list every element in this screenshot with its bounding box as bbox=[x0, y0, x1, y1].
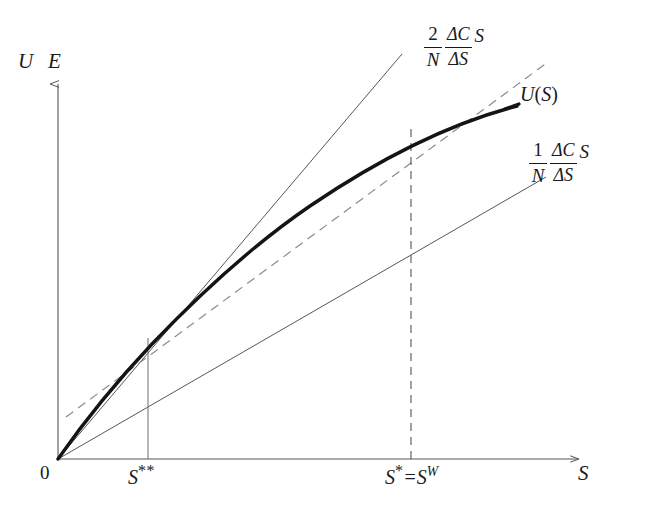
steep-ray-denominator: N bbox=[425, 50, 442, 71]
shallow-ray-line bbox=[58, 177, 546, 459]
steep-ray-delta-fraction-bar bbox=[445, 47, 472, 48]
y-axis-label-e: E bbox=[48, 51, 61, 72]
curve-label-arg: S bbox=[541, 83, 551, 105]
shallow-ray-fraction-dc-over-ds: ΔC ΔS bbox=[550, 141, 577, 185]
x-tick-label-s-double-star: S** bbox=[128, 463, 155, 487]
origin-label: 0 bbox=[40, 463, 50, 482]
shallow-ray-trailing-s: S bbox=[580, 142, 590, 161]
steep-ray-numerator: 2 bbox=[426, 24, 440, 45]
shallow-ray-numerator: 1 bbox=[531, 140, 545, 161]
shallow-ray-fraction-one-over-n: 1 N bbox=[529, 140, 547, 186]
tick-superscript-w: W bbox=[427, 464, 438, 479]
tangent-dashed-line bbox=[66, 62, 548, 417]
shallow-ray-delta-c: ΔC bbox=[550, 141, 577, 160]
utility-curve bbox=[58, 106, 517, 459]
y-axis-label-u: U bbox=[18, 51, 33, 72]
steep-ray-fraction-bar bbox=[424, 47, 442, 48]
plot-canvas bbox=[0, 0, 651, 513]
tick-symbol-s-star: S bbox=[385, 466, 395, 488]
tick-symbol-s-w: S bbox=[417, 466, 427, 488]
shallow-ray-fraction-bar bbox=[529, 163, 547, 164]
x-tick-label-s-star-equals-s-w: S*=SW bbox=[385, 463, 438, 487]
tick-superscript-double-star: ** bbox=[138, 462, 155, 479]
steep-ray-label: 2 N ΔC ΔS S bbox=[424, 24, 484, 70]
economics-figure: U E S 0 S** S*=SW U(S) 2 N ΔC ΔS S 1 N bbox=[0, 0, 651, 513]
shallow-ray-delta-fraction-bar bbox=[550, 163, 577, 164]
steep-ray-delta-s: ΔS bbox=[447, 50, 471, 69]
shallow-ray-label: 1 N ΔC ΔS S bbox=[529, 140, 589, 186]
tick-symbol-s: S bbox=[128, 466, 138, 488]
steep-ray-fraction-two-over-n: 2 N bbox=[424, 24, 442, 70]
steep-ray-trailing-s: S bbox=[475, 26, 485, 45]
steep-ray-line bbox=[58, 54, 402, 459]
tick-equals-sign: = bbox=[404, 466, 417, 488]
shallow-ray-delta-s: ΔS bbox=[552, 166, 576, 185]
steep-ray-delta-c: ΔC bbox=[445, 25, 472, 44]
curve-label-function: U bbox=[520, 83, 534, 105]
x-axis-label-s: S bbox=[578, 463, 589, 484]
shallow-ray-denominator: N bbox=[530, 166, 547, 187]
curve-label-close-paren: ) bbox=[551, 83, 558, 105]
tick-superscript-star: * bbox=[395, 462, 404, 479]
steep-ray-fraction-dc-over-ds: ΔC ΔS bbox=[445, 25, 472, 69]
curve-label-u-of-s: U(S) bbox=[520, 84, 558, 104]
